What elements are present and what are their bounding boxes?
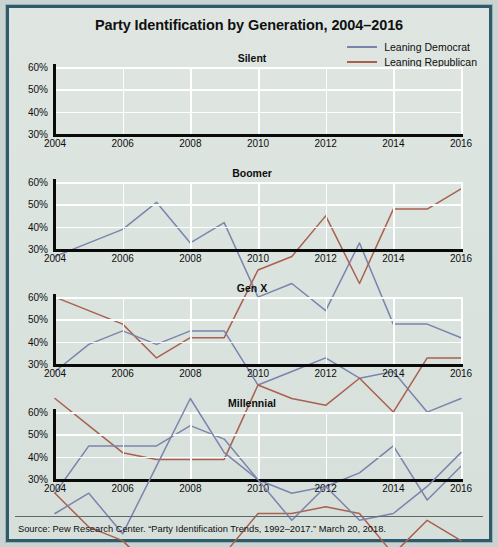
source-divider xyxy=(15,516,483,517)
panel-title: Silent xyxy=(9,52,495,64)
chart-panel-millennial: Millennial30%40%50%60%200420062008201020… xyxy=(9,397,495,510)
panel-title: Gen X xyxy=(9,282,495,294)
y-tick-label: 60% xyxy=(28,292,48,303)
legend-line-icon xyxy=(347,46,377,48)
chart-panel-silent: Silent30%40%50%60%2004200620082010201220… xyxy=(9,52,495,165)
y-tick-label: 50% xyxy=(28,314,48,325)
y-tick-label: 60% xyxy=(28,177,48,188)
y-tick-label: 40% xyxy=(28,106,48,117)
series-line-leaning-democrat xyxy=(55,398,461,533)
y-tick-label: 50% xyxy=(28,429,48,440)
y-tick-label: 40% xyxy=(28,336,48,347)
gridline-vertical xyxy=(461,182,463,249)
y-tick-label: 50% xyxy=(28,84,48,95)
panel-title: Boomer xyxy=(9,167,495,179)
plot-area: 30%40%50%60%2004200620082010201220142016 xyxy=(55,412,461,479)
panel-title: Millennial xyxy=(9,397,495,409)
gridline-vertical xyxy=(461,67,463,134)
plot-area: 30%40%50%60%2004200620082010201220142016 xyxy=(55,182,461,249)
chart-figure: Party Identification by Generation, 2004… xyxy=(6,5,492,542)
figure-title: Party Identification by Generation, 2004… xyxy=(9,17,489,33)
chart-panel-gen-x: Gen X30%40%50%60%20042006200820102012201… xyxy=(9,282,495,395)
plot-area: 30%40%50%60%2004200620082010201220142016 xyxy=(55,297,461,364)
y-tick-label: 60% xyxy=(28,407,48,418)
y-tick-label: 40% xyxy=(28,221,48,232)
source-note: Source: Pew Research Center. “Party Iden… xyxy=(18,524,483,534)
y-tick-label: 40% xyxy=(28,451,48,462)
chart-panel-boomer: Boomer30%40%50%60%2004200620082010201220… xyxy=(9,167,495,280)
y-tick-label: 60% xyxy=(28,62,48,73)
gridline-vertical xyxy=(461,412,463,479)
gridline-vertical xyxy=(461,297,463,364)
plot-area: 30%40%50%60%2004200620082010201220142016 xyxy=(55,67,461,134)
y-tick-label: 50% xyxy=(28,199,48,210)
